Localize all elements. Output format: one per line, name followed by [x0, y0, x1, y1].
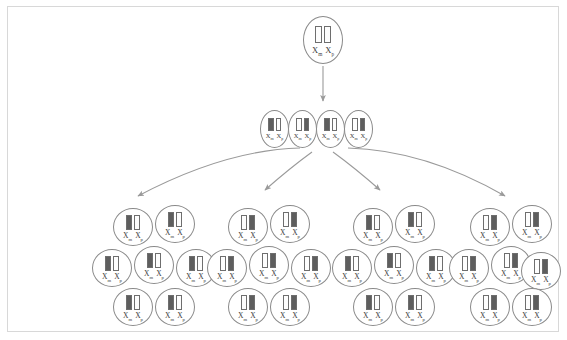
genotype-label: XmXp: [259, 270, 279, 278]
paternal-chromosome-bar: [542, 259, 548, 274]
paternal-chromosome-bar: [324, 26, 331, 43]
paternal-allele: Xp: [417, 312, 425, 320]
maternal-chromosome-bar: [315, 26, 322, 43]
maternal-allele: Xm: [480, 312, 489, 320]
maternal-allele: Xm: [363, 232, 372, 240]
maternal-allele: Xm: [350, 133, 358, 140]
genotype-label: XmXp: [384, 270, 404, 278]
maternal-chromosome-bar: [126, 295, 132, 310]
genotype-label: XmXp: [312, 46, 334, 55]
chromosome-pair: [504, 253, 518, 268]
genotype-label: XmXp: [186, 273, 206, 281]
maternal-allele: Xm: [363, 312, 372, 320]
maternal-chromosome-bar: [283, 295, 289, 310]
chromosome-pair: [283, 295, 297, 310]
genotype-label: XmXp: [280, 312, 300, 320]
maternal-chromosome-bar: [504, 253, 510, 268]
paternal-allele: Xp: [354, 273, 362, 281]
genotype-label: XmXp: [480, 312, 500, 320]
maternal-allele: Xm: [123, 232, 132, 240]
paternal-chromosome-bar: [533, 295, 539, 310]
chromosome-pair: [147, 253, 161, 268]
paternal-chromosome-bar: [176, 212, 182, 227]
genotype-label: XmXp: [165, 229, 185, 237]
maternal-chromosome-bar: [147, 253, 153, 268]
chromosome-pair: [304, 256, 318, 271]
maternal-allele: Xm: [123, 312, 132, 320]
maternal-chromosome-bar: [408, 295, 414, 310]
maternal-chromosome-bar: [534, 259, 540, 274]
maternal-chromosome-bar: [352, 118, 358, 131]
maternal-allele: Xm: [522, 229, 531, 237]
maternal-allele: Xm: [280, 312, 289, 320]
genotype-label: XmXp: [144, 270, 164, 278]
maternal-chromosome-bar: [296, 118, 302, 131]
clone-cell: XmXp: [228, 208, 268, 246]
genotype-label: XmXp: [266, 133, 284, 140]
clone-cell: XmXp: [270, 205, 310, 243]
genotype-label: XmXp: [426, 273, 446, 281]
maternal-chromosome-bar: [525, 212, 531, 227]
maternal-allele: Xm: [426, 273, 435, 281]
chromosome-pair: [296, 118, 309, 131]
paternal-allele: Xp: [271, 270, 279, 278]
maternal-allele: Xm: [301, 273, 310, 281]
paternal-chromosome-bar: [491, 215, 497, 230]
maternal-allele: Xm: [102, 273, 111, 281]
chromosome-pair: [105, 256, 119, 271]
paternal-chromosome-bar: [470, 256, 476, 271]
clone-cell: XmXp: [521, 252, 561, 290]
clone-cell: XmXp: [332, 249, 372, 287]
maternal-chromosome-bar: [324, 118, 330, 131]
maternal-chromosome-bar: [408, 212, 414, 227]
maternal-allele: Xm: [294, 133, 302, 140]
clone-cell: XmXp: [113, 208, 153, 246]
maternal-chromosome-bar: [366, 215, 372, 230]
maternal-chromosome-bar: [304, 256, 310, 271]
paternal-allele: Xp: [492, 232, 500, 240]
maternal-chromosome-bar: [483, 295, 489, 310]
maternal-allele: Xm: [480, 232, 489, 240]
maternal-chromosome-bar: [268, 118, 274, 131]
maternal-chromosome-bar: [241, 215, 247, 230]
paternal-chromosome-bar: [332, 118, 338, 131]
chromosome-pair: [429, 256, 443, 271]
chromosome-pair: [525, 212, 539, 227]
genotype-label: XmXp: [459, 273, 479, 281]
maternal-allele: Xm: [238, 312, 247, 320]
maternal-chromosome-bar: [366, 295, 372, 310]
embryo-cell: XmXp: [260, 110, 289, 148]
maternal-allele: Xm: [322, 133, 330, 140]
maternal-chromosome-bar: [429, 256, 435, 271]
paternal-chromosome-bar: [360, 118, 366, 131]
genotype-label: XmXp: [217, 273, 237, 281]
paternal-chromosome-bar: [249, 295, 255, 310]
genotype-label: XmXp: [350, 133, 368, 140]
paternal-allele: Xp: [250, 312, 258, 320]
maternal-allele: Xm: [501, 270, 510, 278]
paternal-allele: Xp: [305, 133, 312, 140]
clone-cell: XmXp: [512, 288, 552, 326]
maternal-chromosome-bar: [525, 295, 531, 310]
paternal-allele: Xp: [534, 229, 542, 237]
paternal-allele: Xp: [177, 312, 185, 320]
embryo-cell: XmXp: [316, 110, 345, 148]
embryo-cell: XmXp: [288, 110, 317, 148]
maternal-chromosome-bar: [189, 256, 195, 271]
chromosome-pair: [408, 212, 422, 227]
chromosome-pair: [408, 295, 422, 310]
clone-cell: XmXp: [113, 288, 153, 326]
maternal-allele: Xm: [531, 276, 540, 284]
clone-cell: XmXp: [353, 208, 393, 246]
chromosome-pair: [126, 295, 140, 310]
chromosome-pair: [168, 295, 182, 310]
paternal-allele: Xp: [250, 232, 258, 240]
paternal-allele: Xp: [438, 273, 446, 281]
maternal-chromosome-bar: [283, 212, 289, 227]
paternal-allele: Xp: [543, 276, 551, 284]
genotype-label: XmXp: [294, 133, 312, 140]
maternal-chromosome-bar: [241, 295, 247, 310]
genotype-label: XmXp: [522, 312, 542, 320]
maternal-allele: Xm: [342, 273, 351, 281]
chromosome-pair: [283, 212, 297, 227]
